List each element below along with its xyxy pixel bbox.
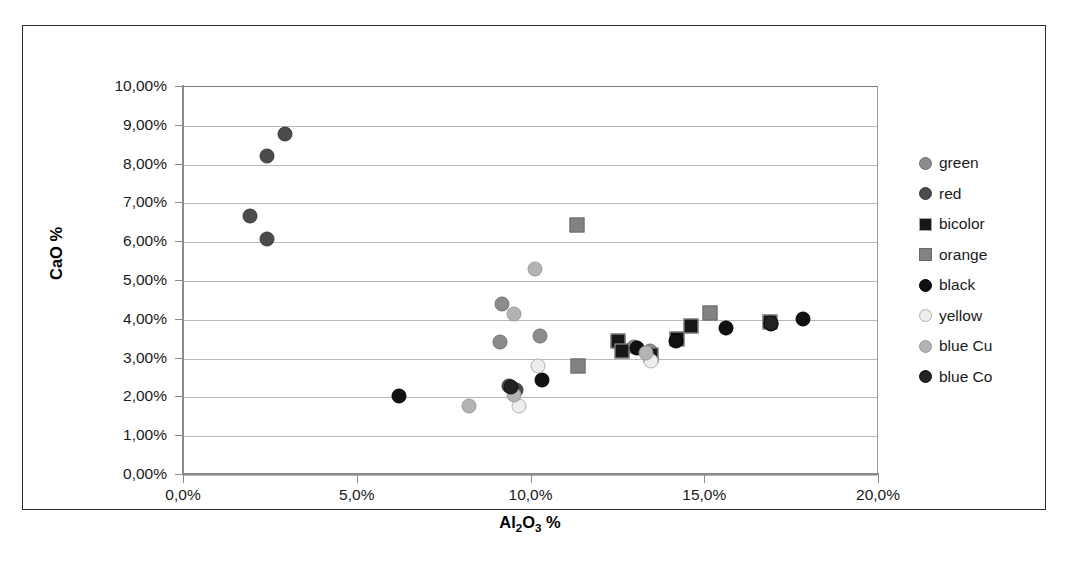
y-axis-tick-label-text: 4,00% [123, 310, 167, 327]
scatter-point-black [534, 372, 549, 387]
y-axis-tick-label: 1,00% [23, 426, 175, 444]
gridline [184, 281, 877, 282]
scatter-point-orange [569, 217, 584, 232]
y-axis-tick-label: 8,00% [23, 155, 175, 173]
gridline [184, 165, 877, 166]
scatter-point-black [668, 334, 683, 349]
y-axis-spine [182, 85, 184, 475]
y-axis-tick-label: 10,00% [23, 77, 175, 95]
x-axis-title-o: O [522, 513, 535, 531]
scatter-point-bicolor [684, 318, 699, 333]
gridline [184, 242, 877, 243]
scatter-point-red [243, 209, 258, 224]
y-axis-tick-label-text: 7,00% [123, 193, 167, 210]
scatter-point-black [719, 321, 734, 336]
legend-swatch-circle-icon [919, 157, 932, 170]
y-axis-tick-label: 9,00% [23, 116, 175, 134]
legend-item-label: orange [939, 246, 987, 264]
x-axis-tick-label: 0,0% [165, 486, 200, 504]
scatter-point-blue-cu [527, 262, 542, 277]
y-axis-tick-label: 5,00% [23, 271, 175, 289]
y-axis-tick-label: 4,00% [23, 310, 175, 328]
scatter-point-black [392, 389, 407, 404]
scatter-point-orange [571, 359, 586, 374]
x-axis-tick [704, 475, 705, 483]
y-axis-tick-label-text: 8,00% [123, 155, 167, 172]
y-axis-tick-label: 7,00% [23, 193, 175, 211]
scatter-point-blue-cu [461, 398, 476, 413]
y-axis-tick-label: 0,00% [23, 465, 175, 483]
legend-item-label: yellow [939, 307, 982, 325]
scatter-point-red [277, 126, 292, 141]
x-axis-title-unit: % [541, 513, 560, 531]
legend-item-yellow[interactable]: yellow [919, 301, 1039, 332]
scatter-point-bicolor [614, 343, 629, 358]
x-axis-tick-label: 15,0% [682, 486, 726, 504]
scatter-point-orange [703, 305, 718, 320]
x-axis-tick [878, 475, 879, 483]
y-axis-tick-label: 3,00% [23, 349, 175, 367]
y-axis-tick-label-text: 0,00% [123, 465, 167, 482]
legend-swatch-circle-icon [919, 340, 932, 353]
scatter-point-blue-co [503, 379, 518, 394]
legend-item-label: bicolor [939, 215, 985, 233]
legend-item-label: red [939, 185, 961, 203]
scatter-point-yellow [531, 358, 546, 373]
gridline [184, 203, 877, 204]
legend-item-label: blue Cu [939, 337, 992, 355]
gridline [184, 359, 877, 360]
y-axis-tick-label: 6,00% [23, 232, 175, 250]
y-axis-tick-label-text: 9,00% [123, 116, 167, 133]
scatter-point-red [260, 232, 275, 247]
legend-item-label: black [939, 276, 975, 294]
y-axis-tick-label-text: 5,00% [123, 271, 167, 288]
legend-swatch-circle-icon [919, 309, 932, 322]
y-axis-tick-label-text: 10,00% [114, 77, 167, 94]
x-axis-tick [357, 475, 358, 483]
legend-item-label: green [939, 154, 979, 172]
legend-item-blue-co[interactable]: blue Co [919, 362, 1039, 393]
legend-item-label: blue Co [939, 368, 992, 386]
scatter-point-blue-cu [639, 345, 654, 360]
x-axis-tick [531, 475, 532, 483]
scatter-point-green [493, 334, 508, 349]
legend-swatch-square-icon [919, 218, 932, 231]
gridline [184, 436, 877, 437]
legend-item-blue-cu[interactable]: blue Cu [919, 331, 1039, 362]
page-caption [40, 543, 1040, 565]
y-axis-tick-label-text: 6,00% [123, 232, 167, 249]
scatter-point-blue-co [764, 315, 779, 330]
plot-area [183, 86, 878, 474]
x-axis-tick-label: 20,0% [856, 486, 900, 504]
x-axis-title: Al2O3 % [499, 513, 560, 534]
scatter-point-blue-cu [507, 306, 522, 321]
scatter-point-black [795, 311, 810, 326]
chart-legend: greenredbicolororangeblackyellowblue Cub… [919, 148, 1039, 392]
y-axis-tick-label-text: 2,00% [123, 387, 167, 404]
x-axis-title-al: Al [499, 513, 516, 531]
legend-item-orange[interactable]: orange [919, 240, 1039, 271]
scatter-point-red [260, 149, 275, 164]
scatter-point-green [533, 329, 548, 344]
x-axis-tick-label: 5,0% [339, 486, 374, 504]
x-axis-tick [183, 475, 184, 483]
legend-item-red[interactable]: red [919, 179, 1039, 210]
legend-swatch-circle-icon [919, 187, 932, 200]
legend-item-green[interactable]: green [919, 148, 1039, 179]
legend-swatch-circle-icon [919, 279, 932, 292]
legend-swatch-square-icon [919, 248, 932, 261]
y-axis-tick-label: 2,00% [23, 387, 175, 405]
legend-item-black[interactable]: black [919, 270, 1039, 301]
x-axis-tick-label: 10,0% [509, 486, 553, 504]
legend-swatch-circle-icon [919, 370, 932, 383]
gridline [184, 397, 877, 398]
chart-figure-frame: CaO % 0,00%1,00%2,00%3,00%4,00%5,00%6,00… [22, 25, 1046, 510]
legend-item-bicolor[interactable]: bicolor [919, 209, 1039, 240]
y-axis-tick-label-text: 1,00% [123, 426, 167, 443]
y-axis-tick-label-text: 3,00% [123, 349, 167, 366]
